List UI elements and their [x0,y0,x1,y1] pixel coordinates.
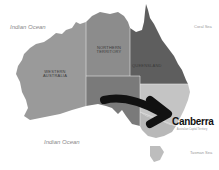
state-label-northern-territory: NORTHERN TERRITORY [94,46,124,54]
ocean-label-indian-south: Indian Ocean [44,139,80,145]
city-subtitle: Australian Capital Territory [175,129,209,132]
state-label-queensland: QUEENSLAND [132,64,162,68]
ocean-label-indian-north: Indian Ocean [10,24,46,30]
state-label-western-australia: WESTERN AUSTRALIA [38,70,72,78]
sea-label-tasman: Tasman Sea [190,151,212,155]
state-tasmania[interactable] [150,146,164,162]
state-queensland[interactable] [130,4,188,84]
city-label-canberra: Canberra [172,117,214,127]
sea-label-coral: Coral Sea [194,25,212,29]
state-northern-territory[interactable] [86,12,130,76]
